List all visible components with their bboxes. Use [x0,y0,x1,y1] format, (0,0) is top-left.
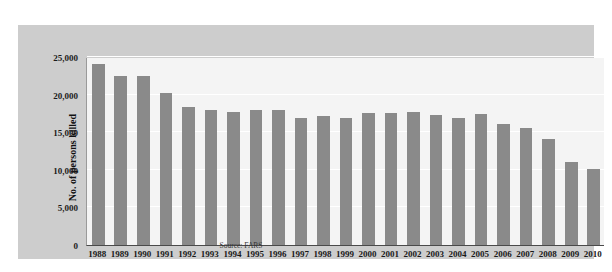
bar [295,118,308,245]
bar [182,107,195,245]
plot-area [86,58,604,246]
x-axis-tick-label: 2000 [356,249,379,259]
x-axis-tick-label: 1992 [176,249,199,259]
bar [92,64,105,245]
x-axis-tick-label: 1996 [266,249,289,259]
bar [497,124,510,245]
y-axis-tick-label: 5,000 [58,203,78,213]
bar [542,139,555,245]
x-axis-tick-label: 2010 [581,249,604,259]
x-axis-tick-label: 1993 [199,249,222,259]
x-axis-tick-label: 1989 [109,249,132,259]
bar [160,93,173,245]
bar [430,115,443,245]
x-axis-tick-label: 2006 [491,249,514,259]
bar [385,113,398,245]
x-axis-tick-label: 2001 [379,249,402,259]
x-axis-tick-label: 1999 [334,249,357,259]
x-axis-tick-label: 1988 [86,249,109,259]
x-axis-tick-label: 2007 [514,249,537,259]
source-note: Source: FARS [0,241,612,250]
x-axis-tick-label: 2004 [446,249,469,259]
x-axis-tick-label: 1997 [289,249,312,259]
bar [452,118,465,245]
bar [317,116,330,245]
bar [272,110,285,245]
x-axis-tick-label: 1995 [244,249,267,259]
y-axis-tick-label: 15,000 [53,128,78,138]
x-axis-tick-label: 1998 [311,249,334,259]
bar [137,76,150,245]
bar-series [87,58,604,245]
bar [362,113,375,245]
x-axis-tick-label: 2008 [536,249,559,259]
bar [475,114,488,245]
x-axis-tick-label: 1991 [154,249,177,259]
x-axis-tick-label: 1990 [131,249,154,259]
gridline [87,56,604,57]
x-axis-tick-label: 1994 [221,249,244,259]
bar [340,118,353,245]
chart-figure: No. of persons killed 05,00010,00015,000… [0,0,612,272]
y-axis-tick-label: 10,000 [53,166,78,176]
chart-panel: No. of persons killed 05,00010,00015,000… [18,25,594,259]
bar [250,110,263,245]
y-axis-tick-label: 20,000 [53,91,78,101]
x-axis-tick-label: 2005 [469,249,492,259]
top-text-fragment [0,0,612,14]
bar [407,112,420,245]
y-axis-tick-labels: 05,00010,00015,00020,00025,000 [36,58,82,246]
bar [114,76,127,245]
x-axis-tick-label: 2003 [424,249,447,259]
x-axis-tick-label: 2002 [401,249,424,259]
bar [587,169,600,245]
y-axis-tick-label: 25,000 [53,53,78,63]
x-axis-tick-labels: 1988198919901991199219931994199519961997… [86,249,604,265]
x-axis-tick-label: 2009 [559,249,582,259]
bar [205,110,218,245]
bar [565,162,578,245]
bar [227,112,240,245]
bar [520,128,533,245]
